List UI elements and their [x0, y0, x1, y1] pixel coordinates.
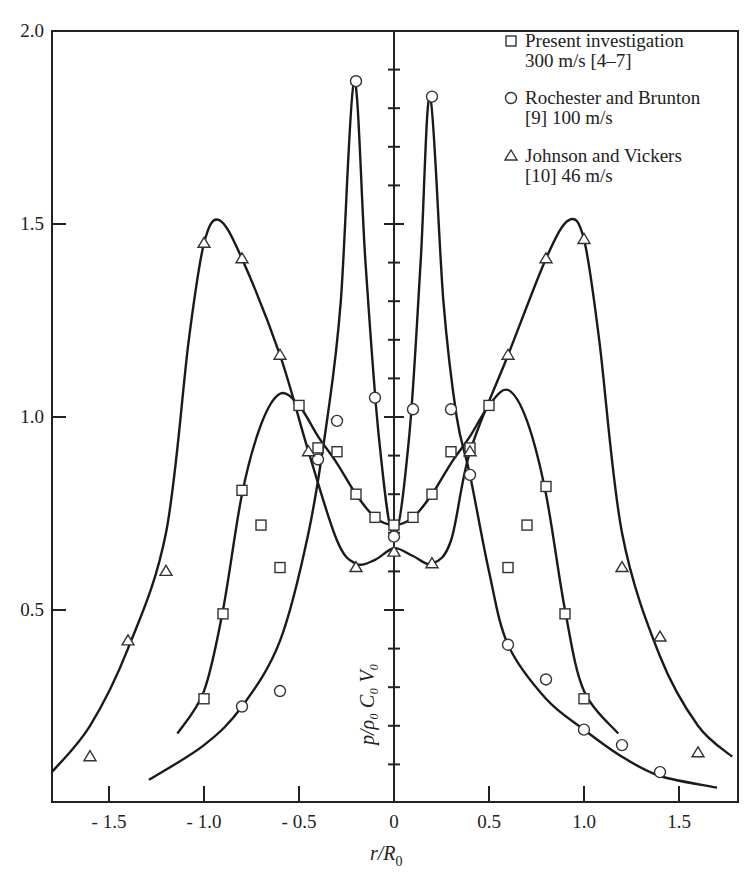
triangle-data-point: [692, 747, 704, 757]
triangle-data-point: [236, 253, 248, 263]
legend-label: Present investigation: [525, 30, 684, 51]
legend-label: Rochester and Brunton: [525, 87, 701, 108]
square-data-point: [427, 489, 437, 499]
triangle-data-point: [198, 237, 210, 247]
x-tick-label: - 1.5: [92, 811, 127, 832]
legend-label-sub: [9] 100 m/s: [525, 107, 613, 128]
triangle-data-point: [654, 631, 666, 641]
y-axis-title: p/ρ₀ C₀ V₀: [356, 663, 379, 747]
circle-series-curve: [149, 81, 717, 788]
square-data-point: [560, 609, 570, 619]
square-data-point: [484, 400, 494, 410]
circle-data-point: [541, 674, 552, 685]
circle-data-point: [617, 740, 628, 751]
x-tick-label: 0.5: [477, 811, 501, 832]
circle-data-point: [503, 639, 514, 650]
circle-data-point: [389, 531, 400, 542]
square-data-point: [541, 481, 551, 491]
triangle-data-point: [84, 751, 96, 761]
legend: Present investigation300 m/s [4–7]Roches…: [505, 30, 701, 186]
legend-label-sub: [10] 46 m/s: [525, 165, 613, 186]
square-data-point: [446, 447, 456, 457]
circle-data-point: [275, 686, 286, 697]
legend-circle-icon: [506, 93, 517, 104]
square-data-point: [351, 489, 361, 499]
x-axis-ticks: - 1.5- 1.0- 0.500.51.01.5: [92, 786, 691, 832]
circle-data-point: [237, 701, 248, 712]
x-axis-title: r/R0: [370, 842, 403, 869]
square-data-point: [503, 563, 513, 573]
circle-data-point: [370, 392, 381, 403]
triangle-data-point: [578, 233, 590, 243]
square-data-point: [522, 520, 532, 530]
square-series-curve: [177, 390, 618, 734]
fitted-curves: [52, 81, 732, 788]
x-tick-label: 0: [389, 811, 399, 832]
x-tick-label: - 1.0: [187, 811, 222, 832]
y-tick-label: 0.5: [20, 599, 44, 620]
legend-label: Johnson and Vickers: [525, 145, 682, 166]
square-data-point: [370, 512, 380, 522]
legend-square-icon: [506, 36, 516, 46]
square-data-point: [256, 520, 266, 530]
chart: 0.51.01.52.0 - 1.5- 1.0- 0.500.51.01.5 P…: [0, 0, 746, 873]
triangle-data-point: [616, 562, 628, 572]
square-data-point: [408, 512, 418, 522]
x-tick-label: 1.5: [667, 811, 691, 832]
circle-data-point: [351, 76, 362, 87]
square-data-point: [332, 447, 342, 457]
square-data-point: [218, 609, 228, 619]
legend-label-sub: 300 m/s [4–7]: [525, 50, 632, 71]
circle-data-point: [427, 91, 438, 102]
x-tick-label: 1.0: [572, 811, 596, 832]
circle-data-point: [465, 469, 476, 480]
x-tick-label: - 0.5: [282, 811, 317, 832]
triangle-data-point: [540, 253, 552, 263]
y-tick-label: 2.0: [20, 20, 44, 41]
square-data-point: [579, 694, 589, 704]
legend-triangle-icon: [505, 150, 517, 160]
square-data-point: [389, 520, 399, 530]
circle-data-point: [408, 404, 419, 415]
y-tick-label: 1.0: [20, 406, 44, 427]
circle-data-point: [579, 724, 590, 735]
triangle-data-point: [160, 565, 172, 575]
triangle-data-point: [274, 349, 286, 359]
square-data-point: [275, 563, 285, 573]
square-data-point: [294, 400, 304, 410]
y-axis-ticks: 0.51.01.52.0: [20, 20, 66, 620]
circle-data-point: [446, 404, 457, 415]
triangle-data-point: [502, 349, 514, 359]
triangle-data-point: [350, 562, 362, 572]
square-data-point: [313, 443, 323, 453]
circle-data-point: [332, 415, 343, 426]
center-axis: [384, 31, 404, 802]
square-data-point: [237, 485, 247, 495]
circle-data-point: [655, 767, 666, 778]
square-data-point: [199, 694, 209, 704]
y-tick-label: 1.5: [20, 213, 44, 234]
